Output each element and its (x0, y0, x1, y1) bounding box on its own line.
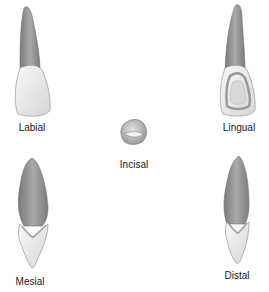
labial-label: Labial (19, 122, 46, 134)
lingual-tooth-icon (205, 0, 269, 140)
mesial-label: Mesial (16, 276, 45, 288)
labial-view: Labial (0, 0, 70, 140)
lingual-label: Lingual (223, 122, 255, 134)
distal-label: Distal (224, 270, 249, 282)
incisal-label: Incisal (120, 159, 148, 171)
incisal-view: Incisal (110, 110, 160, 170)
lingual-view: Lingual (205, 0, 269, 140)
incisal-tooth-icon (110, 110, 160, 160)
mesial-tooth-icon (0, 146, 70, 292)
labial-tooth-icon (0, 0, 70, 140)
distal-view: Distal (205, 146, 269, 292)
mesial-view: Mesial (0, 146, 70, 292)
